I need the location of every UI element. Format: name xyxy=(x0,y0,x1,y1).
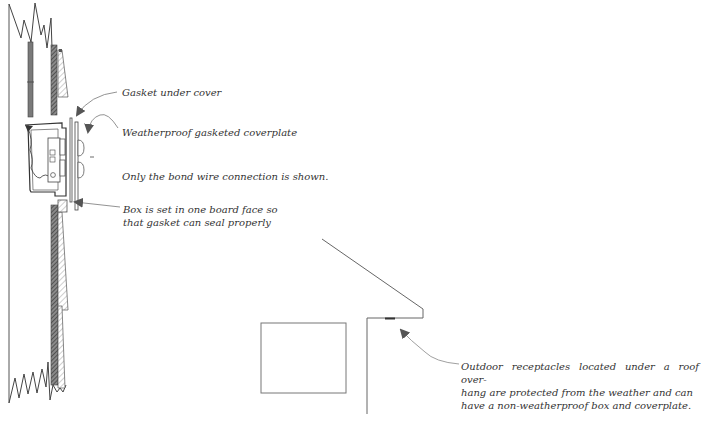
cover-lid-upper xyxy=(78,140,84,156)
overhang-note-line-3: have a non-weatherproof box and coverpla… xyxy=(461,399,699,412)
coverplate-label: Weatherproof gasketed coverplate xyxy=(122,126,297,139)
gasket xyxy=(70,118,72,202)
box-note-line-1: Box is set in one board face so xyxy=(123,203,278,216)
stud-strip xyxy=(28,42,33,117)
box-note: Box is set in one board face so that gas… xyxy=(123,203,278,229)
overhang-note-line-2: hang are protected from the weather and … xyxy=(461,386,699,399)
siding-board-1 xyxy=(58,50,68,97)
coverplate-leader-arrow xyxy=(88,115,118,132)
mounting-block xyxy=(58,200,67,212)
box-leader-arrow xyxy=(75,202,120,207)
cover-lid-lower xyxy=(78,162,84,178)
roof-slope-line xyxy=(322,239,423,309)
siding-board-1b xyxy=(59,49,62,52)
sheathing-lower xyxy=(51,205,58,385)
window-box xyxy=(261,323,346,393)
overhang-sketch xyxy=(261,239,423,414)
box-note-line-2: that gasket can seal properly xyxy=(123,216,278,229)
terminal-screw-2 xyxy=(50,157,55,162)
gasket-leader-arrow xyxy=(77,92,117,115)
overhang-leader-arrow xyxy=(401,330,459,364)
ground-screw xyxy=(51,173,56,178)
bond-wire-note: Only the bond wire connection is shown. xyxy=(122,170,328,183)
overhang-note-line-1: Outdoor receptacles located under a roof… xyxy=(461,360,699,386)
gasket-label: Gasket under cover xyxy=(122,86,221,99)
siding-board-2 xyxy=(58,212,68,310)
siding-board-3 xyxy=(58,306,65,388)
top-break-line xyxy=(9,3,52,48)
terminal-screw-1 xyxy=(50,150,55,155)
electrical-box xyxy=(25,123,66,196)
overhang-note: Outdoor receptacles located under a roof… xyxy=(461,360,699,412)
coverplate xyxy=(75,122,78,210)
sheathing-upper xyxy=(51,45,57,115)
